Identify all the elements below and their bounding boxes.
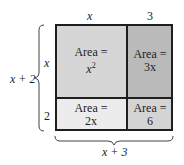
horizontal-divider: [55, 97, 173, 99]
vertical-divider: [126, 24, 128, 131]
outer-rectangle: [55, 24, 173, 131]
bottom-brace-label: x + 3: [102, 146, 127, 158]
bottom-brace-icon: [55, 136, 173, 145]
left-brace-icon: [35, 25, 44, 131]
left-brace-label: x + 2: [10, 73, 35, 85]
